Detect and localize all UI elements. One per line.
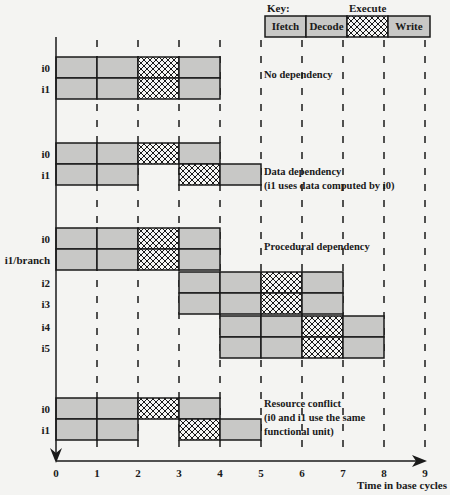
stage-f — [220, 316, 261, 337]
row-label: i3 — [41, 298, 50, 310]
stage-e — [179, 419, 220, 440]
stage-f — [56, 228, 97, 249]
stage-f — [56, 78, 97, 99]
stage-w — [179, 143, 220, 164]
x-axis-ticks: 0123456789 — [53, 467, 428, 479]
stage-f — [220, 337, 261, 358]
legend-boxes: Ifetch Decode Write — [265, 16, 430, 37]
row-labels: i0i1i0i1i0i1/branchi2i3i4i5i0i1 — [5, 62, 51, 436]
stage-f — [56, 57, 97, 78]
x-tick-label: 8 — [381, 467, 387, 479]
legend-execute-box — [347, 16, 388, 37]
stage-e — [302, 337, 343, 358]
stage-d — [97, 228, 138, 249]
stage-d — [261, 337, 302, 358]
stage-d — [97, 57, 138, 78]
stage-w — [343, 316, 384, 337]
stage-d — [97, 419, 138, 440]
x-tick-label: 5 — [258, 467, 264, 479]
legend-ifetch-label: Ifetch — [272, 20, 300, 32]
x-tick-label: 0 — [53, 467, 59, 479]
stage-d — [220, 293, 261, 314]
stage-f — [56, 249, 97, 270]
x-tick-label: 2 — [135, 467, 141, 479]
legend-decode-label: Decode — [309, 20, 343, 32]
stage-d — [97, 164, 138, 185]
stage-w — [179, 57, 220, 78]
stage-f — [56, 419, 97, 440]
legend-title: Key: — [267, 2, 290, 14]
x-tick-label: 6 — [299, 467, 305, 479]
x-tick-label: 9 — [422, 467, 428, 479]
row-label: i1 — [41, 83, 50, 95]
stage-e — [179, 164, 220, 185]
caption-resource-conflict: functional unit) — [264, 426, 334, 438]
legend-write-label: Write — [395, 20, 422, 32]
stage-d — [261, 316, 302, 337]
caption-resource-conflict: (i0 and i1 use the same — [264, 412, 366, 424]
stage-w — [220, 419, 261, 440]
stage-e — [261, 272, 302, 293]
stage-w — [179, 228, 220, 249]
row-label: i2 — [41, 277, 50, 289]
stage-f — [179, 293, 220, 314]
row-label: i5 — [41, 342, 50, 354]
x-tick-label: 3 — [176, 467, 182, 479]
legend-execute-label: Execute — [349, 2, 386, 14]
caption-resource-conflict: Resource conflict — [264, 398, 342, 409]
stage-e — [138, 143, 179, 164]
pipeline-diagram: Key: Execute Ifetch Decode Write i0i1i0i… — [0, 0, 450, 495]
stage-f — [179, 272, 220, 293]
row-label: i0 — [41, 62, 50, 74]
stage-e — [138, 249, 179, 270]
stage-d — [97, 78, 138, 99]
caption-no-dependency: No dependency — [264, 69, 333, 80]
stage-f — [56, 164, 97, 185]
x-tick-label: 7 — [340, 467, 346, 479]
legend: Key: Execute Ifetch Decode Write — [265, 2, 430, 37]
row-label: i0 — [41, 148, 50, 160]
stage-w — [179, 398, 220, 419]
row-label: i4 — [41, 321, 50, 333]
stage-f — [56, 143, 97, 164]
row-label: i0 — [41, 233, 50, 245]
x-tick-label: 4 — [217, 467, 223, 479]
section-captions: No dependencyData dependency(i1 uses dat… — [264, 69, 395, 438]
stage-d — [97, 249, 138, 270]
stage-e — [302, 316, 343, 337]
x-axis-label: Time in base cycles — [357, 479, 448, 491]
row-label: i1 — [41, 169, 50, 181]
stage-w — [343, 337, 384, 358]
stage-e — [261, 293, 302, 314]
row-label: i0 — [41, 403, 50, 415]
x-tick-label: 1 — [94, 467, 100, 479]
stage-w — [220, 164, 261, 185]
row-label: i1/branch — [5, 254, 50, 266]
stage-w — [302, 272, 343, 293]
stage-e — [138, 57, 179, 78]
stage-e — [138, 78, 179, 99]
stage-w — [179, 249, 220, 270]
stage-e — [138, 228, 179, 249]
stage-w — [302, 293, 343, 314]
stage-e — [138, 398, 179, 419]
stage-w — [179, 78, 220, 99]
row-label: i1 — [41, 424, 50, 436]
stage-d — [97, 398, 138, 419]
stage-f — [56, 398, 97, 419]
stage-d — [97, 143, 138, 164]
caption-data-dependency: Data dependency — [264, 166, 342, 177]
caption-data-dependency: (i1 uses data computed by i0) — [264, 180, 395, 192]
stage-d — [220, 272, 261, 293]
caption-procedural-dependency: Procedural dependency — [264, 241, 370, 252]
